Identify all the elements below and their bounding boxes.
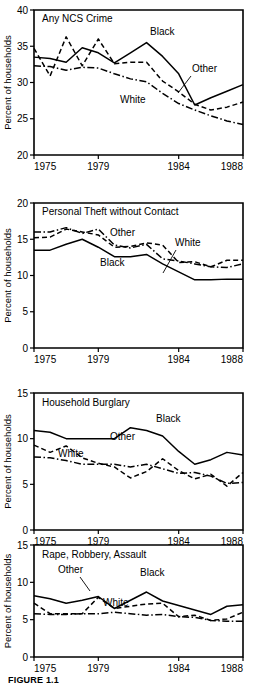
y-axis-tick-label: 30 [17,77,29,88]
series-annotation-black: Black [140,567,165,578]
series-line-other [34,229,243,267]
x-axis-tick-label: 1979 [87,663,110,674]
x-axis-tick-label: 1984 [168,663,191,674]
annotation-leader-line [178,76,191,93]
chart-svg: 0510151975197919841988Percent of househo… [0,537,262,677]
series-line-other [34,597,243,620]
y-axis-tick-label: 15 [17,388,29,399]
x-axis-tick-label: 1975 [34,663,57,674]
series-annotation-black: Black [150,26,175,37]
series-annotation-white: White [103,597,129,608]
x-axis-tick-label: 1988 [221,354,244,365]
y-axis-tick-label: 0 [22,343,28,354]
x-axis-tick-label: 1988 [221,161,244,172]
y-axis-tick-label: 5 [22,614,28,625]
y-axis-title: Percent of households [2,414,13,509]
series-line-white [34,457,243,483]
y-axis-title: Percent of households [2,553,13,648]
chart-panel-any-ncs-crime: 20253035401975197919841988Percent of hou… [0,0,262,175]
series-annotation-white: White [120,94,146,105]
x-axis-tick-label: 1975 [34,354,57,365]
series-annotation-black: Black [100,257,125,268]
y-axis-tick-label: 0 [22,652,28,663]
x-axis-tick-label: 1984 [168,161,191,172]
panel-title: Household Burglary [42,397,130,408]
y-axis-tick-label: 5 [22,479,28,490]
figure-container: 20253035401975197919841988Percent of hou… [0,0,262,684]
plot-frame [34,393,243,530]
y-axis-tick-label: 15 [17,540,29,551]
series-line-black [34,592,243,614]
chart-panel-rape-robbery-assault: 0510151975197919841988Percent of househo… [0,537,262,677]
y-axis-tick-label: 20 [17,198,29,209]
series-annotation-white: White [175,237,201,248]
chart-svg: 051015201975197919841988Percent of house… [0,193,262,368]
chart-panel-personal-theft: 051015201975197919841988Percent of house… [0,193,262,368]
panel-title: Any NCS Crime [42,13,113,24]
x-axis-tick-label: 1979 [87,354,110,365]
x-axis-tick-label: 1975 [34,161,57,172]
x-axis-tick-label: 1988 [221,663,244,674]
x-axis-tick-label: 1984 [168,354,191,365]
series-annotation-other: Other [110,431,136,442]
y-axis-tick-label: 25 [17,113,29,124]
plot-frame [34,10,243,155]
chart-svg: 20253035401975197919841988Percent of hou… [0,0,262,175]
series-annotation-white: White [58,448,84,459]
series-annotation-other: Other [192,63,218,74]
chart-panel-household-burglary: 0510151975197919841988Percent of househo… [0,385,262,550]
y-axis-tick-label: 10 [17,270,29,281]
panel-title: Personal Theft without Contact [42,206,179,217]
chart-svg: 0510151975197919841988Percent of househo… [0,385,262,550]
y-axis-tick-label: 15 [17,234,29,245]
y-axis-tick-label: 5 [22,306,28,317]
series-line-black [34,239,243,280]
series-annotation-black: Black [156,413,181,424]
series-annotation-other: Other [58,564,84,575]
y-axis-tick-label: 40 [17,5,29,16]
y-axis-tick-label: 0 [22,525,28,536]
figure-caption: FIGURE 1.1 [8,675,59,684]
y-axis-tick-label: 35 [17,41,29,52]
plot-frame [34,545,243,657]
y-axis-tick-label: 10 [17,577,29,588]
panel-title: Rape, Robbery, Assault [42,549,147,560]
y-axis-tick-label: 20 [17,150,29,161]
plot-frame [34,203,243,348]
annotation-leader-line [80,577,90,591]
series-annotation-other: Other [110,227,136,238]
y-axis-title: Percent of households [2,228,13,323]
x-axis-tick-label: 1979 [87,161,110,172]
series-line-white [34,228,243,268]
y-axis-tick-label: 10 [17,433,29,444]
y-axis-title: Percent of households [2,35,13,130]
